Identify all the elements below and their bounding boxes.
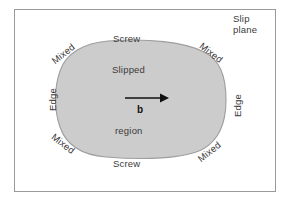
figure-caption [16, 198, 236, 210]
edge-label-right: Edge [232, 92, 243, 120]
slip-plane-label: Slip plane [233, 13, 273, 35]
region-label: region [115, 125, 143, 136]
screw-label-top: Screw [113, 33, 140, 44]
slipped-label: Slipped [112, 64, 145, 75]
burgers-vector-label: b [137, 104, 143, 116]
screw-label-bottom: Screw [113, 158, 140, 169]
edge-label-left: Edge [47, 86, 58, 114]
dislocation-loop-figure: b Slip plane Screw Screw Edge Edge Mixed… [0, 0, 291, 212]
slipped-region-shape [56, 40, 227, 158]
